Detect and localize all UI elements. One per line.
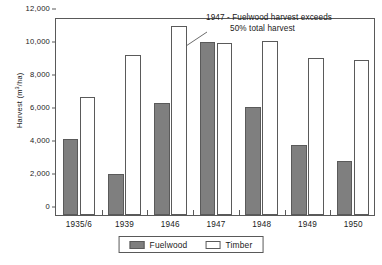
y-axis-tick-label: 6,000 bbox=[30, 103, 56, 112]
y-axis-tick-label: 12,000 bbox=[26, 4, 56, 13]
bar-timber-1949 bbox=[308, 58, 324, 215]
x-axis-tick-label: 1950 bbox=[344, 220, 363, 229]
bar-timber-1935-6 bbox=[80, 97, 96, 215]
y-axis-tick-label: 0 bbox=[46, 202, 56, 211]
bar-timber-1946 bbox=[171, 26, 187, 215]
annotation-line-1: 1947 - Fuelwood harvest exceeds bbox=[206, 13, 382, 24]
bar-timber-1939 bbox=[125, 55, 141, 215]
y-axis-label-prefix: Harvest (m bbox=[15, 89, 24, 128]
y-axis-tick-label: 4,000 bbox=[30, 136, 56, 145]
legend-swatch-fuelwood bbox=[130, 241, 145, 249]
x-axis-tick-label: 1939 bbox=[115, 220, 134, 229]
legend-label-timber: Timber bbox=[225, 240, 252, 250]
x-axis-tick-mark bbox=[147, 210, 148, 215]
bar-fuelwood-1947 bbox=[200, 42, 216, 215]
bar-fuelwood-1939 bbox=[108, 174, 124, 215]
bar-timber-1947 bbox=[217, 43, 233, 215]
x-axis-tick-mark bbox=[193, 210, 194, 215]
y-axis-label-suffix: /ha) bbox=[15, 72, 24, 86]
bar-timber-1948 bbox=[262, 41, 278, 215]
x-axis-tick-label: 1947 bbox=[206, 220, 225, 229]
x-axis-tick-mark bbox=[330, 210, 331, 215]
y-axis-label: Harvest (m3/ha) bbox=[14, 40, 24, 160]
bar-fuelwood-1948 bbox=[245, 107, 261, 215]
x-axis-tick-mark bbox=[285, 210, 286, 215]
x-axis-tick-label: 1948 bbox=[252, 220, 271, 229]
y-axis-label-exponent: 3 bbox=[14, 86, 20, 89]
annotation-line-2: 50% total harvest bbox=[206, 24, 382, 35]
y-axis-tick-label: 8,000 bbox=[30, 70, 56, 79]
bar-fuelwood-1946 bbox=[154, 103, 170, 215]
bar-timber-1950 bbox=[354, 60, 370, 215]
x-axis-tick-label: 1935/6 bbox=[66, 220, 92, 229]
x-axis-tick-label: 1949 bbox=[298, 220, 317, 229]
annotation-1947: 1947 - Fuelwood harvest exceeds 50% tota… bbox=[206, 13, 382, 34]
legend-label-fuelwood: Fuelwood bbox=[150, 240, 188, 250]
x-axis-tick-label: 1946 bbox=[161, 220, 180, 229]
bar-fuelwood-1950 bbox=[337, 161, 353, 215]
bar-fuelwood-1935-6 bbox=[63, 139, 79, 215]
plot-area: 02,0004,0006,0008,00010,00012,000 1935/6… bbox=[55, 18, 375, 216]
y-axis-tick-label: 2,000 bbox=[30, 169, 56, 178]
x-axis-tick-mark bbox=[239, 210, 240, 215]
x-axis-tick-mark bbox=[102, 210, 103, 215]
legend-swatch-timber bbox=[205, 241, 220, 249]
y-axis-tick-label: 10,000 bbox=[26, 37, 56, 46]
bar-fuelwood-1949 bbox=[291, 145, 307, 215]
legend-item-timber: Timber bbox=[205, 240, 252, 250]
bar-chart-figure: Harvest (m3/ha) 02,0004,0006,0008,00010,… bbox=[0, 0, 382, 265]
chart-legend: Fuelwood Timber bbox=[119, 236, 264, 253]
legend-item-fuelwood: Fuelwood bbox=[130, 240, 188, 250]
